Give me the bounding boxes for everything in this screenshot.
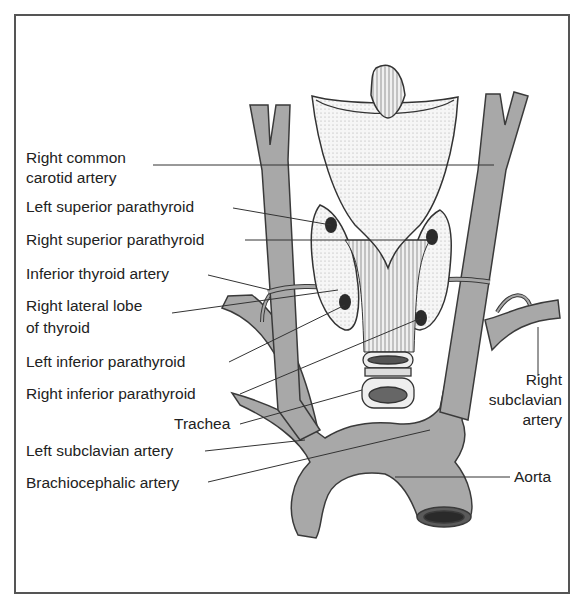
label-left-inferior-parathyroid: Left inferior parathyroid [26, 352, 185, 372]
label-brachiocephalic-artery: Brachiocephalic artery [26, 473, 179, 493]
right-subclavian [485, 300, 560, 350]
label-right-superior-parathyroid: Right superior parathyroid [26, 230, 204, 250]
label-right-common-carotid-line2: carotid artery [26, 168, 116, 188]
label-right-subclavian-line3: artery [500, 410, 562, 430]
label-aorta: Aorta [514, 467, 551, 487]
label-right-subclavian-line1: Right [500, 370, 562, 390]
label-left-superior-parathyroid: Left superior parathyroid [26, 197, 194, 217]
label-left-subclavian-artery: Left subclavian artery [26, 441, 173, 461]
label-right-common-carotid-line1: Right common [26, 148, 126, 168]
label-right-lateral-lobe-line1: Right lateral lobe [26, 296, 142, 316]
label-right-inferior-parathyroid: Right inferior parathyroid [26, 384, 196, 404]
label-inferior-thyroid-artery: Inferior thyroid artery [26, 264, 169, 284]
label-right-subclavian-line2: subclavian [480, 390, 562, 410]
left-carotid [250, 105, 320, 440]
label-right-lateral-lobe-line2: of thyroid [26, 318, 90, 338]
label-trachea: Trachea [174, 414, 230, 434]
trachea-rings [362, 352, 414, 408]
